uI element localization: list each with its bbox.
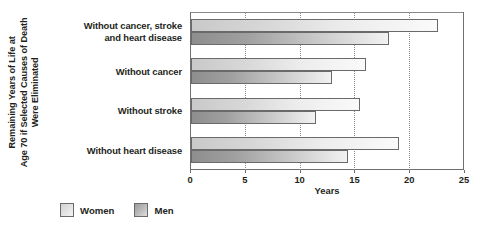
bar-women-2 bbox=[191, 58, 366, 71]
x-tick-label-5: 5 bbox=[232, 174, 258, 185]
x-tick-label-20: 20 bbox=[396, 174, 422, 185]
y-axis-title-line-2: Age 70 if Selected Causes of Death bbox=[18, 18, 30, 168]
bar-women-4 bbox=[191, 137, 399, 150]
legend-label: Men bbox=[154, 205, 173, 216]
category-label-2: Without cancer bbox=[48, 66, 182, 77]
chart-legend: WomenMen bbox=[60, 200, 174, 220]
y-axis-title-line-3: Were Eliminated bbox=[30, 18, 42, 168]
x-axis-line bbox=[190, 169, 464, 170]
bar-chart-figure: Remaining Years of Life at Age 70 if Sel… bbox=[0, 0, 489, 226]
bar-men-2 bbox=[191, 71, 332, 84]
x-tick-label-15: 15 bbox=[341, 174, 367, 185]
category-label-1: Without cancer, strokeand heart disease bbox=[48, 20, 182, 43]
y-axis-title-line-1: Remaining Years of Life at bbox=[7, 18, 19, 168]
women-swatch-icon bbox=[60, 203, 74, 217]
bar-men-1 bbox=[191, 32, 389, 45]
bar-men-4 bbox=[191, 150, 348, 163]
x-tick-mark-15 bbox=[354, 170, 355, 173]
category-label-line: and heart disease bbox=[48, 32, 182, 43]
y-axis-title: Remaining Years of Life at Age 70 if Sel… bbox=[0, 0, 48, 185]
legend-item-women[interactable]: Women bbox=[60, 203, 114, 217]
category-label-list: Without cancer, strokeand heart diseaseW… bbox=[48, 12, 186, 170]
bar-women-1 bbox=[191, 19, 438, 32]
category-label-3: Without stroke bbox=[48, 105, 182, 116]
x-tick-mark-10 bbox=[300, 170, 301, 173]
x-tick-label-10: 10 bbox=[287, 174, 313, 185]
category-label-line: Without stroke bbox=[48, 105, 182, 116]
gridline-20 bbox=[409, 12, 410, 170]
x-tick-mark-25 bbox=[464, 170, 465, 173]
men-swatch-icon bbox=[134, 203, 148, 217]
x-tick-label-0: 0 bbox=[177, 174, 203, 185]
plot-area: 0510152025 bbox=[190, 12, 464, 170]
x-tick-mark-20 bbox=[409, 170, 410, 173]
plot-top-border bbox=[190, 12, 464, 13]
plot-right-border bbox=[463, 12, 464, 170]
bar-women-3 bbox=[191, 98, 360, 111]
category-label-line: Without cancer, stroke bbox=[48, 20, 182, 31]
legend-item-men[interactable]: Men bbox=[134, 203, 173, 217]
legend-label: Women bbox=[80, 205, 114, 216]
x-tick-mark-0 bbox=[190, 170, 191, 173]
x-tick-label-25: 25 bbox=[451, 174, 477, 185]
category-label-4: Without heart disease bbox=[48, 145, 182, 156]
category-label-line: Without cancer bbox=[48, 66, 182, 77]
bar-men-3 bbox=[191, 111, 316, 124]
x-tick-mark-5 bbox=[245, 170, 246, 173]
category-label-line: Without heart disease bbox=[48, 145, 182, 156]
x-axis-title: Years bbox=[190, 185, 464, 196]
